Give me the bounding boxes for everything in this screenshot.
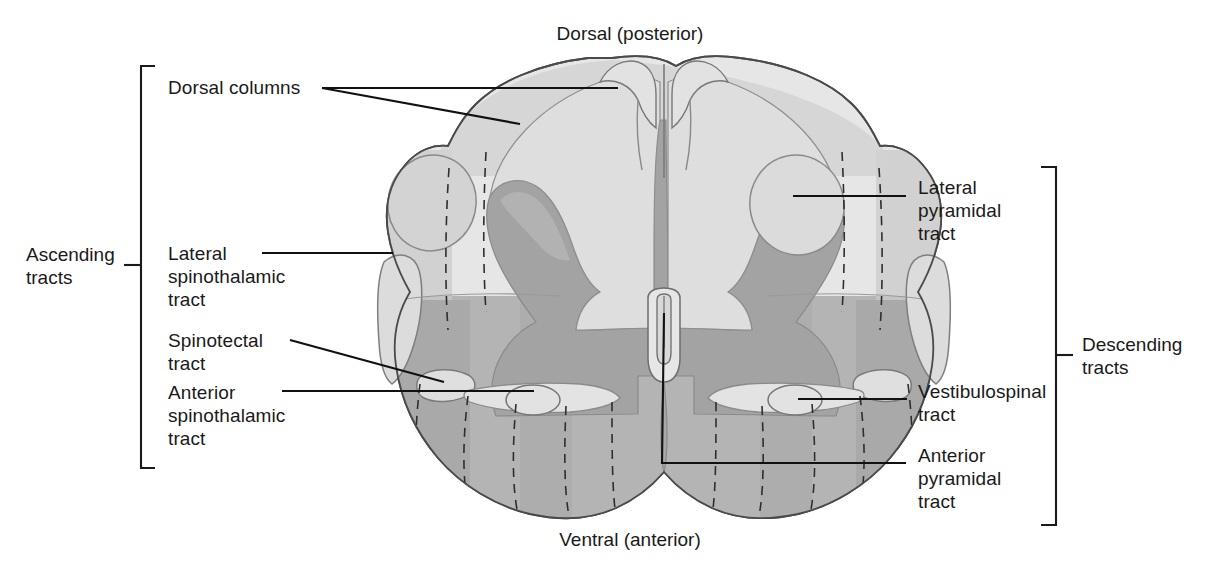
bracket-ascending bbox=[124, 66, 155, 468]
label-anterior-pyramidal-tract: Anterior pyramidal tract bbox=[918, 444, 1001, 513]
label-dorsal-columns: Dorsal columns bbox=[168, 76, 300, 99]
label-anterior-spinothalamic-tract: Anterior spinothalamic tract bbox=[168, 381, 285, 450]
label-lateral-spinothalamic-tract: Lateral spinothalamic tract bbox=[168, 242, 285, 311]
bracket-descending bbox=[1041, 167, 1073, 525]
label-spinotectal-tract: Spinotectal tract bbox=[168, 329, 263, 375]
orientation-label-dorsal: Dorsal (posterior) bbox=[430, 22, 830, 45]
orientation-label-ventral: Ventral (anterior) bbox=[430, 528, 830, 551]
group-label-descending-tracts: Descending tracts bbox=[1082, 333, 1182, 379]
label-vestibulospinal-tract: Vestibulospinal tract bbox=[918, 380, 1046, 426]
spinal-cord-figure: Dorsal (posterior) Ventral (anterior) As… bbox=[0, 0, 1229, 574]
anterior-spinothalamic-tract-left bbox=[506, 385, 560, 415]
label-lateral-pyramidal-tract: Lateral pyramidal tract bbox=[918, 176, 1001, 245]
cord-body bbox=[378, 56, 951, 546]
group-label-ascending-tracts: Ascending tracts bbox=[26, 243, 115, 289]
